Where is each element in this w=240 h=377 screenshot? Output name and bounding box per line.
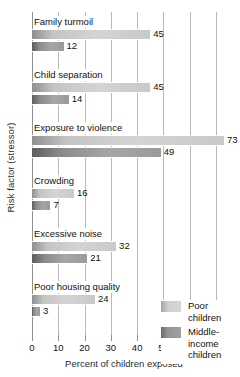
category-label: Excessive noise	[34, 228, 104, 240]
bar-poor-children	[32, 135, 224, 146]
x-tick-label-20: 20	[79, 342, 90, 354]
bar-chart: Risk factor (stressor) Poor children Mid…	[0, 0, 240, 377]
bar-middle-income-children	[32, 306, 40, 317]
bar-value-label: 32	[119, 240, 130, 252]
bar-row: 21	[32, 253, 216, 264]
y-axis-title: Risk factor (stressor)	[0, 0, 22, 335]
bar-row: 12	[32, 41, 216, 52]
bar-group: Exposure to violence7349	[32, 122, 216, 158]
bar-row: 45	[32, 82, 216, 93]
legend-swatch-middle-income-children	[161, 327, 181, 338]
bar-poor-children	[32, 188, 74, 199]
bar-value-label: 21	[90, 252, 101, 264]
bar-poor-children	[32, 82, 150, 93]
bar-value-label: 3	[43, 305, 48, 317]
bar-value-label: 45	[153, 28, 164, 40]
bar-row: 14	[32, 94, 216, 105]
legend-label-middle-income-children: Middle-income children	[188, 326, 221, 361]
bar-row: 73	[32, 135, 216, 146]
x-tick-label-10: 10	[53, 342, 64, 354]
x-tick-label-30: 30	[106, 342, 117, 354]
bar-value-label: 12	[67, 40, 78, 52]
bar-value-label: 16	[77, 187, 88, 199]
gridline-70	[216, 12, 217, 335]
x-tick-20	[85, 335, 86, 341]
bar-value-label: 49	[164, 146, 175, 158]
bar-row: 45	[32, 29, 216, 40]
bar-value-label: 24	[98, 293, 109, 305]
x-tick-30	[111, 335, 112, 341]
bar-row: 32	[32, 241, 216, 252]
bar-group: Excessive noise3221	[32, 228, 216, 264]
bar-row: 7	[32, 200, 216, 211]
category-label: Crowding	[34, 175, 76, 187]
x-tick-40	[137, 335, 138, 341]
category-label: Poor housing quality	[34, 281, 122, 293]
category-label: Child separation	[34, 69, 105, 81]
bar-group: Family turmoil4512	[32, 16, 216, 52]
bar-middle-income-children	[32, 147, 161, 158]
legend-swatch-poor-children	[161, 301, 181, 312]
category-label: Exposure to violence	[34, 122, 124, 134]
bar-row: 16	[32, 188, 216, 199]
bar-middle-income-children	[32, 94, 69, 105]
x-tick-10	[58, 335, 59, 341]
legend-item-middle-income-children: Middle-income children	[161, 326, 221, 361]
legend-item-poor-children: Poor children	[161, 300, 221, 323]
bar-poor-children	[32, 241, 116, 252]
category-label: Family turmoil	[34, 16, 95, 28]
bar-group: Crowding167	[32, 175, 216, 211]
bar-middle-income-children	[32, 253, 87, 264]
bar-value-label: 73	[227, 134, 238, 146]
bar-poor-children	[32, 29, 150, 40]
x-tick-label-40: 40	[132, 342, 143, 354]
chart-legend: Poor children Middle-income children	[161, 300, 221, 364]
bar-poor-children	[32, 294, 95, 305]
plot-area: Poor children Middle-income children Fam…	[32, 12, 216, 335]
bar-middle-income-children	[32, 200, 50, 211]
bar-row: 49	[32, 147, 216, 158]
bar-group: Child separation4514	[32, 69, 216, 105]
legend-label-poor-children: Poor children	[188, 300, 221, 323]
bar-value-label: 14	[72, 93, 83, 105]
bar-value-label: 7	[53, 199, 58, 211]
bar-value-label: 45	[153, 81, 164, 93]
x-tick-0	[32, 335, 33, 341]
bar-middle-income-children	[32, 41, 64, 52]
y-axis-title-text: Risk factor (stressor)	[6, 123, 17, 213]
x-tick-label-0: 0	[29, 342, 34, 354]
